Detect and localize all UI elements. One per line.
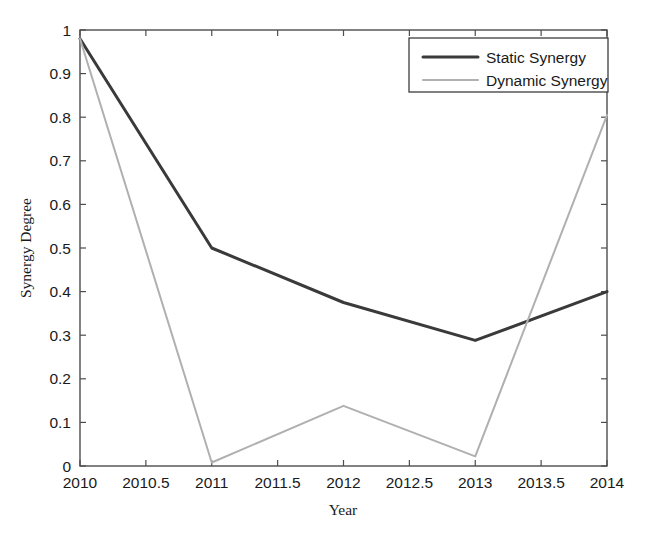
y-tick-label: 0.2	[49, 370, 71, 387]
x-tick-label: 2013.5	[517, 474, 564, 491]
y-axis-ticks	[80, 30, 607, 466]
chart-legend[interactable]: Static SynergyDynamic Synergy	[409, 38, 608, 92]
line-chart: 20102010.520112011.520122012.520132013.5…	[0, 0, 654, 539]
y-tick-label: 0.3	[49, 327, 71, 344]
y-tick-label: 0.5	[49, 240, 71, 257]
x-tick-label: 2011.5	[254, 474, 300, 491]
axis-frame	[80, 30, 607, 466]
y-axis-title: Synergy Degree	[17, 198, 34, 298]
x-tick-label: 2010	[63, 474, 98, 491]
y-tick-label: 0.8	[49, 109, 71, 126]
y-tick-label: 1	[62, 22, 71, 39]
x-tick-label: 2011	[195, 474, 228, 491]
y-tick-label: 0.7	[49, 152, 71, 169]
y-tick-label: 0.4	[49, 283, 71, 300]
series-line-dynamic-synergy	[80, 39, 607, 463]
x-axis-ticks	[80, 30, 607, 466]
x-tick-label: 2013	[458, 474, 492, 491]
x-tick-label: 2014	[590, 474, 625, 491]
x-axis-title: Year	[329, 501, 358, 518]
legend-label-dynamic-synergy: Dynamic Synergy	[486, 72, 608, 89]
data-series-group	[80, 39, 607, 463]
chart-figure: 20102010.520112011.520122012.520132013.5…	[0, 0, 654, 539]
y-tick-label: 0.1	[49, 414, 71, 431]
x-tick-label: 2010.5	[122, 474, 169, 491]
x-axis-tick-labels: 20102010.520112011.520122012.520132013.5…	[63, 474, 625, 491]
y-tick-label: 0	[62, 458, 71, 475]
x-tick-label: 2012	[326, 474, 360, 491]
plot-border	[80, 30, 607, 466]
legend-label-static-synergy: Static Synergy	[486, 49, 586, 66]
y-tick-label: 0.9	[49, 65, 71, 82]
y-axis-tick-labels: 00.10.20.30.40.50.60.70.80.91	[49, 22, 71, 475]
x-tick-label: 2012.5	[386, 474, 433, 491]
y-tick-label: 0.6	[49, 196, 71, 213]
